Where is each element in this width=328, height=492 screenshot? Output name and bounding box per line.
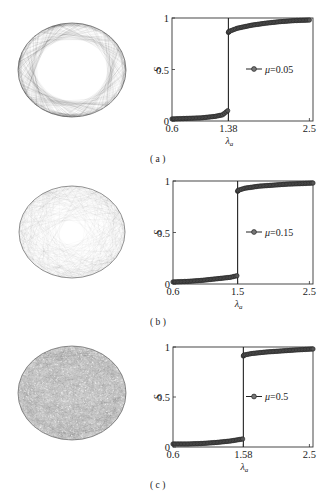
y-tick-label: 1 — [165, 176, 170, 187]
legend-label: μ=0.05 — [264, 64, 293, 75]
network-visualization-c — [0, 330, 150, 492]
x-tick-label: 2.5 — [303, 449, 316, 460]
y-tick-label: 1 — [164, 13, 169, 24]
legend: μ=0.5 — [246, 391, 288, 402]
network-edges — [19, 186, 125, 278]
chart-c: 00.510.61.582.5Sλaμ=0.5( c ) — [150, 330, 328, 492]
panel-label: ( a ) — [150, 154, 165, 164]
x-tick-label: 0.6 — [166, 449, 179, 460]
panel-label: ( c ) — [150, 480, 165, 491]
panel-b: 00.510.61.52.5Sλaμ=0.15( b ) — [0, 165, 328, 329]
x-axis-label: λa — [239, 461, 248, 474]
y-axis-label: S — [152, 230, 163, 235]
x-tick-label: 1.5 — [231, 286, 244, 297]
x-axis-label: λa — [234, 298, 243, 311]
panel-c: 00.510.61.582.5Sλaμ=0.5( c ) — [0, 330, 328, 492]
x-tick-label: 1.58 — [234, 449, 252, 460]
x-tick-label: 0.6 — [165, 123, 178, 134]
legend-label: μ=0.15 — [264, 227, 293, 238]
x-tick-label: 2.5 — [303, 286, 316, 297]
y-axis-label: S — [152, 67, 163, 72]
data-series — [171, 181, 315, 284]
panel-label: ( b ) — [150, 317, 166, 328]
x-tick-label: 0.6 — [166, 286, 179, 297]
chart-b: 00.510.61.52.5Sλaμ=0.15( b ) — [150, 165, 328, 329]
network-visualization-a — [0, 0, 150, 164]
x-tick-label: 2.5 — [303, 123, 316, 134]
y-axis-label: S — [152, 395, 163, 400]
legend: μ=0.15 — [246, 227, 293, 238]
panel-a: 00.510.61.382.5Sλaμ=0.05( a ) — [0, 0, 328, 164]
x-axis-label: λa — [224, 135, 233, 148]
network-visualization-b — [0, 165, 150, 329]
network-edges — [18, 23, 126, 117]
x-tick-label: 1.38 — [219, 123, 237, 134]
chart-a: 00.510.61.382.5Sλaμ=0.05( a ) — [150, 0, 328, 164]
legend: μ=0.05 — [246, 64, 293, 75]
y-tick-label: 1 — [165, 342, 170, 353]
legend-label: μ=0.5 — [264, 391, 288, 402]
